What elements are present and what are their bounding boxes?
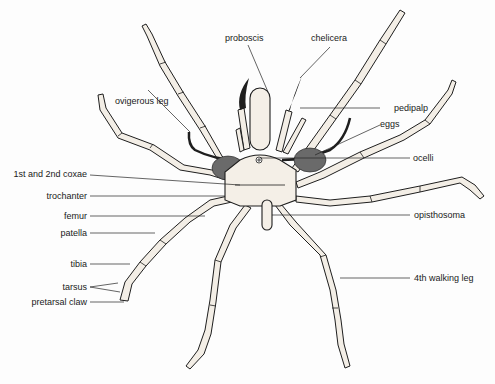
opisthosoma: [262, 200, 272, 230]
diagram-canvas: proboscis chelicera pedipalp eggs ocelli…: [0, 0, 495, 384]
label-pedipalp: pedipalp: [394, 103, 428, 113]
label-patella: patella: [60, 228, 87, 238]
label-chelicera: chelicera: [311, 33, 347, 43]
sea-spider-illustration: proboscis chelicera pedipalp eggs ocelli…: [0, 0, 495, 384]
leg-right-3: [296, 177, 484, 206]
leg-right-4: [275, 204, 350, 368]
label-proboscis: proboscis: [225, 33, 264, 43]
label-4th-walking-leg: 4th walking leg: [414, 273, 474, 283]
label-ovigerous-leg: ovigerous leg: [115, 96, 169, 106]
label-ocelli: ocelli: [413, 153, 434, 163]
proboscis: [250, 88, 270, 150]
leg-left-4: [186, 205, 251, 369]
label-femur: femur: [64, 211, 87, 221]
label-opisthosoma: opisthosoma: [414, 210, 465, 220]
label-tarsus: tarsus: [62, 282, 87, 292]
egg-mass-right: [294, 148, 326, 172]
label-tibia: tibia: [70, 259, 87, 269]
label-trochanter: trochanter: [46, 191, 87, 201]
label-pretarsal-claw: pretarsal claw: [31, 297, 87, 307]
label-eggs: eggs: [380, 119, 400, 129]
label-coxae: 1st and 2nd coxae: [13, 169, 87, 179]
